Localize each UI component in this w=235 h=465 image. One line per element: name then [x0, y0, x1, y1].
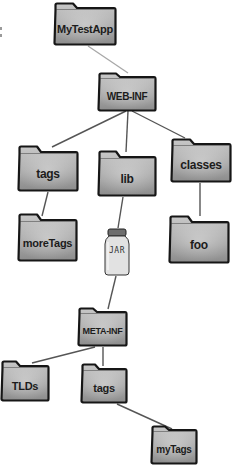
- folder-web-inf: WEB-INF: [97, 72, 157, 112]
- folder-label: tags: [17, 155, 79, 192]
- edge-jar-to-meta-inf: [108, 276, 116, 309]
- folder-lib: lib: [97, 150, 157, 197]
- folder-label: foo: [168, 226, 230, 264]
- edge-web-inf-to-lib: [126, 111, 128, 152]
- folder-label: MyTestApp: [53, 12, 117, 46]
- folder-classes: classes: [170, 138, 232, 183]
- edge-lib-to-jar: [118, 197, 123, 228]
- edge-web-inf-to-tags: [52, 111, 126, 147]
- edge-mytestapp-to-web-inf: [88, 46, 128, 73]
- folder-label: lib: [97, 160, 157, 197]
- folder-label: META-INF: [77, 316, 128, 347]
- edge-web-inf-to-classes: [132, 111, 185, 138]
- clipped-glyph-mark: [0, 27, 3, 41]
- folder-label: WEB-INF: [97, 81, 157, 112]
- folder-label: classes: [170, 148, 232, 183]
- folder-tlds: TLDs: [0, 360, 50, 402]
- folder-label: tags: [80, 372, 128, 404]
- folder-meta-inf: META-INF: [77, 307, 128, 347]
- folder-label: TLDs: [0, 369, 50, 402]
- jar-file: JAR: [104, 228, 130, 276]
- folder-moretags: moreTags: [17, 213, 78, 262]
- jar-label: JAR: [104, 246, 130, 255]
- folder-mytags: myTags: [150, 425, 198, 465]
- directory-tree-diagram: MyTestApp WEB-INF tags lib classes moreT…: [0, 0, 235, 465]
- folder-label: myTags: [150, 434, 198, 465]
- folder-tags: tags: [17, 145, 79, 192]
- folder-label: moreTags: [17, 224, 78, 262]
- folder-tags-nested: tags: [80, 363, 128, 404]
- folder-mytestapp: MyTestApp: [53, 2, 117, 46]
- folder-foo: foo: [168, 215, 230, 264]
